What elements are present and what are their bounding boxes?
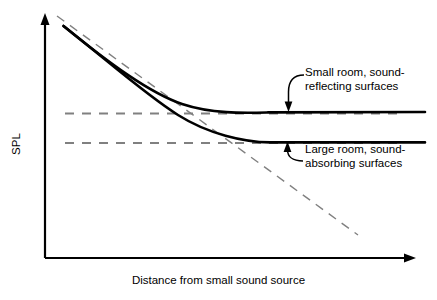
x-axis-label: Distance from small sound source (0, 274, 437, 286)
y-axis-arrowhead (41, 13, 50, 25)
large-room-annotation: Large room, sound- absorbing surfaces (305, 143, 405, 170)
x-axis-arrowhead (404, 254, 416, 263)
y-axis-label: SPL (10, 122, 22, 166)
small-room-annotation: Small room, sound- reflecting surfaces (305, 66, 405, 93)
small-room-annotation-line1: Small room, sound- (305, 66, 405, 80)
small-room-annotation-line2: reflecting surfaces (305, 80, 405, 94)
small-room-leader-line (289, 75, 305, 103)
small-room-leader-arrowhead (285, 102, 293, 113)
y-axis-label-wrapper: SPL (6, 128, 26, 168)
large-room-annotation-line1: Large room, sound- (305, 143, 405, 157)
free-field-decay-dashed-line (57, 16, 358, 235)
spl-distance-chart: Small room, sound- reflecting surfaces L… (0, 0, 437, 300)
large-room-annotation-line2: absorbing surfaces (305, 157, 405, 171)
